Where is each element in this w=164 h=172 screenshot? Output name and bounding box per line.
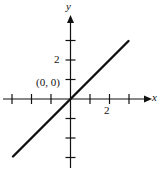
y-axis — [67, 15, 74, 168]
x-axis-label: x — [152, 92, 157, 103]
origin-point-annotation: (0, 0) — [36, 77, 60, 88]
x-axis — [3, 96, 152, 103]
y-axis-label: y — [66, 1, 71, 12]
graph-canvas — [0, 0, 164, 172]
coordinate-plane-figure: y x 2 2 (0, 0) — [0, 0, 164, 172]
y-tick-label-2: 2 — [54, 54, 60, 65]
x-tick-label-2: 2 — [104, 105, 110, 116]
